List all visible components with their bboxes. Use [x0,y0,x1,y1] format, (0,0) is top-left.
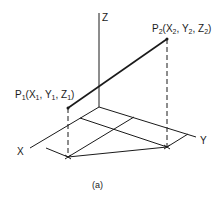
x-projection-line-p1 [46,148,68,157]
x-axis-label: X [17,147,24,157]
y-projection-line-p2 [167,134,188,147]
y-axis [99,107,196,137]
p1-label: P1(X1, Y1, Z1) [15,90,74,103]
segment-p1-p2 [68,39,167,108]
x-axis [30,107,99,148]
z-axis-label: Z [102,13,108,23]
y-axis-label: Y [200,136,207,146]
p1-point [67,107,70,110]
p2-label: P2(X2, Y2, Z2) [152,24,211,37]
x-projection-line [80,118,167,147]
p2-point [166,38,169,41]
figure-caption: (a) [92,180,103,190]
